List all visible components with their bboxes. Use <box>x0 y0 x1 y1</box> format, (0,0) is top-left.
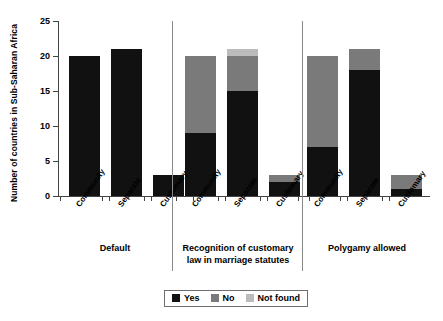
chart-legend: Yes No Not found <box>164 290 308 307</box>
x-tick-mark <box>151 196 152 201</box>
y-tick-mark <box>53 56 58 57</box>
y-axis-line <box>58 21 59 196</box>
y-tick-label: 25 <box>40 17 50 26</box>
x-tick-mark <box>347 196 348 201</box>
x-tick-mark <box>109 196 110 201</box>
bar-segment-no <box>349 49 380 70</box>
x-tick-mark <box>102 196 103 201</box>
legend-label-yes: Yes <box>184 293 200 303</box>
x-tick-mark <box>389 196 390 201</box>
legend-item-no: No <box>211 293 235 303</box>
y-tick-label: 5 <box>45 157 50 166</box>
stacked-bar-chart: Number of countries in Sub-Saharan Afric… <box>0 0 443 321</box>
x-tick-mark <box>60 196 61 201</box>
y-tick-mark <box>53 196 58 197</box>
legend-label-not-found: Not found <box>258 293 300 303</box>
bar[interactable] <box>349 49 380 196</box>
x-tick-mark <box>144 196 145 201</box>
x-tick-mark <box>260 196 261 201</box>
legend-label-no: No <box>223 293 235 303</box>
group-label-default: Default <box>58 243 172 255</box>
x-tick-mark <box>309 196 310 201</box>
y-tick-label: 15 <box>40 87 50 96</box>
y-tick-label: 20 <box>40 52 50 61</box>
group-label-polygamy: Polygamy allowed <box>304 243 430 255</box>
legend-swatch-not-found <box>246 294 254 302</box>
x-tick-mark <box>225 196 226 201</box>
legend-swatch-yes <box>172 294 180 302</box>
group-separator-2 <box>302 21 303 271</box>
group-label-recognition: Recognition of customary law in marriage… <box>174 243 302 266</box>
y-tick-label: 10 <box>40 122 50 131</box>
x-tick-mark <box>176 196 177 201</box>
bar-segment-not-found <box>227 49 258 56</box>
bar[interactable] <box>227 49 258 196</box>
plot-area: 0510152025 CommunitySeparateCustomaryCom… <box>58 21 430 196</box>
x-tick-mark <box>298 196 299 201</box>
bar-segment-no <box>307 56 338 147</box>
legend-item-yes: Yes <box>172 293 200 303</box>
legend-item-not-found: Not found <box>246 293 300 303</box>
y-tick-mark <box>53 161 58 162</box>
y-tick-mark <box>53 21 58 22</box>
y-tick-mark <box>53 126 58 127</box>
bar[interactable] <box>111 49 142 196</box>
y-tick-mark <box>53 91 58 92</box>
x-tick-mark <box>340 196 341 201</box>
group-separator-1 <box>172 21 173 271</box>
y-tick-label: 0 <box>45 192 50 201</box>
legend-swatch-no <box>211 294 219 302</box>
y-axis-title: Number of countries in Sub-Saharan Afric… <box>9 13 19 213</box>
bar-segment-yes <box>111 49 142 196</box>
bar-segment-no <box>227 56 258 91</box>
x-tick-mark <box>218 196 219 201</box>
x-tick-mark <box>382 196 383 201</box>
x-tick-mark <box>267 196 268 201</box>
bar-segment-no <box>185 56 216 133</box>
